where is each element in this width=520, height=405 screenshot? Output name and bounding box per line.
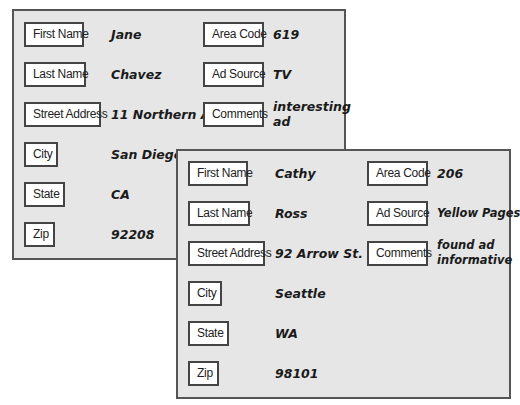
ad-source-label: Ad Source [203, 62, 264, 87]
last-name-label: Last Name [24, 62, 86, 87]
ad-source-value: Yellow Pages [437, 206, 520, 221]
state-value: CA [111, 187, 130, 202]
first-name-value: Cathy [275, 166, 316, 181]
street-address-label: Street Address [24, 102, 101, 127]
area-code-label: Area Code [203, 22, 264, 47]
first-name-label: First Name [188, 161, 248, 186]
area-code-label: Area Code [367, 161, 428, 186]
street-address-label: Street Address [188, 241, 265, 266]
area-code-value: 206 [437, 166, 463, 181]
last-name-value: Chavez [111, 67, 161, 82]
comments-value: found ad informative [437, 238, 511, 268]
city-value: Seattle [275, 286, 326, 301]
city-value: San Diego [111, 147, 182, 162]
area-code-value: 619 [273, 27, 299, 42]
zip-label: Zip [188, 361, 219, 386]
record-card-cathy-ross: First Name Cathy Last Name Ross Street A… [176, 149, 511, 399]
city-label: City [188, 281, 222, 306]
city-label: City [24, 142, 58, 167]
state-label: State [188, 321, 229, 346]
street-address-value: 92 Arrow St. [275, 246, 363, 261]
comments-label: Comments [367, 241, 428, 266]
last-name-label: Last Name [188, 201, 250, 226]
state-label: State [24, 182, 65, 207]
state-value: WA [275, 326, 298, 341]
last-name-value: Ross [275, 206, 307, 221]
zip-value: 98101 [275, 366, 319, 381]
first-name-label: First Name [24, 22, 84, 47]
comments-label: Comments [203, 102, 264, 127]
ad-source-label: Ad Source [367, 201, 428, 226]
comments-value: interesting ad [273, 99, 339, 129]
first-name-value: Jane [111, 27, 141, 42]
ad-source-value: TV [273, 67, 291, 82]
zip-value: 92208 [111, 227, 155, 242]
zip-label: Zip [24, 222, 55, 247]
